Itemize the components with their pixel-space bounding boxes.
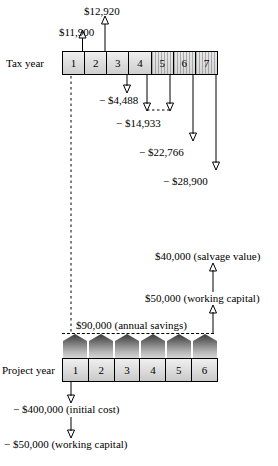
tax-year-cell-2[interactable]: 2 [85,52,107,74]
savings-arrow-shape [193,334,217,359]
project-year-cell-4[interactable]: 4 [140,359,166,381]
project-inflow-arrow-salvage [210,263,217,292]
savings-arrow-shape [141,334,165,359]
project-year-cell-3[interactable]: 3 [115,359,141,381]
tax-outflow-arrow-4488 [124,75,131,93]
project-inflow-arrow-working-capital [210,305,217,334]
annual-savings-arrow-6 [192,334,218,359]
project-outflow-arrow-initial-cost [68,382,75,403]
project-year-axis-label: Project year [2,365,55,376]
annual-savings-arrow-5 [166,334,192,359]
project-flow-label-salvage: $40,000 (salvage value) [155,251,260,262]
tax-outflow-arrow-14933-a [144,75,151,111]
savings-arrow-shape [167,334,191,359]
savings-arrow-shape [63,334,87,359]
cash-flow-diagram: Tax year 1 2 3 4 5 6 7 $11,900 $12,920 −… [0,0,278,466]
tax-year-cell-6[interactable]: 6 [174,52,196,74]
project-flow-label-working-capital-out: − $50,000 (working capital) [4,439,128,450]
annual-savings-arrow-2 [88,334,114,359]
tax-flow-label-11900: $11,900 [59,27,94,38]
tax-year-axis-label: Tax year [6,58,44,69]
tax-outflow-arrow-22766 [190,75,197,141]
project-year-cell-2[interactable]: 2 [89,359,115,381]
project-year-cell-5[interactable]: 5 [166,359,192,381]
project-year-cell-6[interactable]: 6 [192,359,217,381]
project-flow-label-initial-cost: − $400,000 (initial cost) [13,404,119,415]
tax-outflow-arrow-28900 [213,75,220,170]
project-year-cell-1[interactable]: 1 [63,359,89,381]
tax-year-cell-4[interactable]: 4 [129,52,151,74]
project-year-bar: 1 2 3 4 5 6 [62,358,218,382]
tax-flow-label-28900: − $28,900 [163,176,208,187]
savings-arrow-shape [115,334,139,359]
project-outflow-arrow-working-capital [68,417,75,438]
tax-flow-label-14933: − $14,933 [116,118,161,129]
tax-flow-label-22766: − $22,766 [139,147,184,158]
project-flow-label-annual-savings: $90,000 (annual savings) [76,320,187,331]
annual-savings-arrow-1 [62,334,88,359]
annual-savings-arrows [62,334,218,359]
savings-arrow-shape [89,334,113,359]
annual-savings-arrow-4 [140,334,166,359]
tax-year-cell-7[interactable]: 7 [196,52,217,74]
tax-year-cell-1[interactable]: 1 [63,52,85,74]
tax-outflow-arrow-14933-b [167,75,174,111]
tax-year-bar: 1 2 3 4 5 6 7 [62,51,218,75]
annual-savings-arrow-3 [114,334,140,359]
tax-year-cell-3[interactable]: 3 [107,52,129,74]
tax-inflow-arrow-12920 [102,16,109,51]
project-flow-label-working-capital-in: $50,000 (working capital) [145,293,260,304]
tax-flow-label-12920: $12,920 [84,6,120,17]
tax-flow-label-4488: − $4,488 [99,95,138,106]
tax-year-cell-5[interactable]: 5 [152,52,174,74]
